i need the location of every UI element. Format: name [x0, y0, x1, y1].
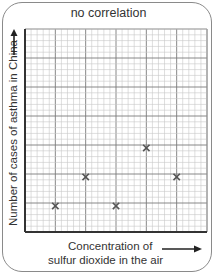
scatter-plot: [25, 29, 207, 232]
x-axis-arrow-icon: [162, 244, 202, 254]
chart-title: no correlation: [0, 6, 217, 20]
x-axis-label-line-2: sulfur dioxide in the air: [40, 253, 210, 267]
plot-area: [25, 29, 207, 232]
y-axis-arrow-icon: [8, 29, 20, 55]
y-axis-label: Number of cases of asthma in China: [7, 23, 23, 243]
